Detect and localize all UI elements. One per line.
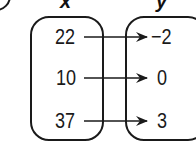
domain-value: 10: [56, 67, 76, 89]
range-value: −2: [151, 26, 172, 48]
problem-number-circle: [0, 0, 10, 10]
range-value: 3: [157, 110, 167, 132]
range-value: 0: [157, 67, 167, 89]
mapping-diagram: x y 22 10 37 −2 0 3: [0, 0, 196, 149]
domain-label: x: [60, 0, 71, 11]
range-label: y: [156, 0, 167, 11]
domain-value: 22: [55, 26, 75, 48]
domain-value: 37: [55, 110, 75, 132]
